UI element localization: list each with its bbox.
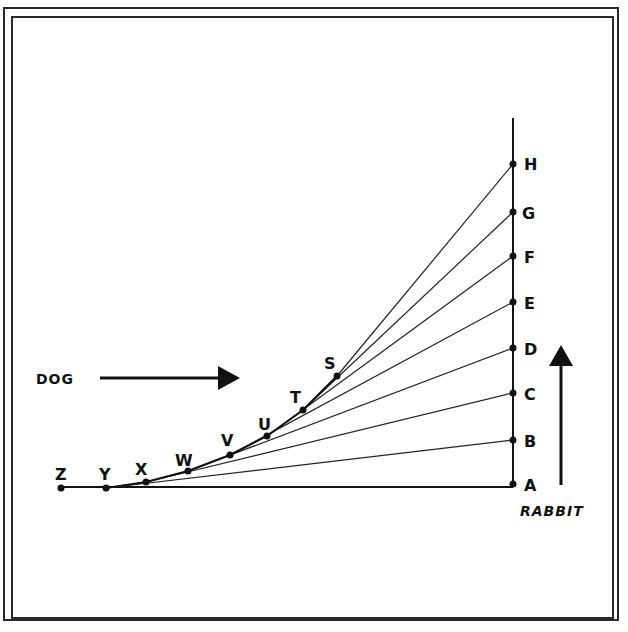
- sight-lines: [106, 164, 513, 488]
- sight-line-t-g: [303, 212, 513, 410]
- label-v: V: [221, 431, 234, 450]
- point-f: [510, 253, 517, 260]
- label-t: T: [290, 388, 301, 407]
- point-d: [510, 345, 517, 352]
- point-c: [510, 390, 517, 397]
- rabbit-point-labels: A B C D E F G H: [522, 155, 537, 495]
- label-g: G: [522, 204, 535, 223]
- rabbit-arrow-icon: [549, 345, 573, 485]
- label-f: F: [524, 248, 535, 267]
- label-z: Z: [55, 465, 67, 484]
- label-x: X: [135, 460, 148, 479]
- dog-arrow-icon: [100, 366, 240, 390]
- pursuit-diagram: A B C D E F G H Z Y X W V U T S DOG RABB…: [0, 0, 628, 632]
- sight-line-y-b: [106, 440, 513, 488]
- point-s: [334, 373, 341, 380]
- point-z: [58, 485, 65, 492]
- label-s: S: [324, 354, 336, 373]
- point-a: [510, 481, 517, 488]
- point-g: [510, 209, 517, 216]
- rabbit-label: RABBIT: [520, 503, 584, 519]
- point-t: [300, 407, 307, 414]
- point-v: [227, 452, 234, 459]
- label-u: U: [258, 415, 271, 434]
- label-w: W: [175, 451, 193, 470]
- label-a: A: [524, 476, 537, 495]
- point-b: [510, 437, 517, 444]
- label-b: B: [524, 432, 536, 451]
- point-e: [510, 299, 517, 306]
- label-h: H: [524, 155, 537, 174]
- dog-point-labels: Z Y X W V U T S: [55, 354, 336, 484]
- sight-line-s-h: [337, 164, 513, 376]
- label-c: C: [524, 385, 536, 404]
- label-e: E: [524, 294, 535, 313]
- sight-line-x-c: [146, 393, 513, 482]
- point-x: [143, 479, 150, 486]
- label-d: D: [524, 340, 537, 359]
- point-y: [103, 485, 110, 492]
- dog-label: DOG: [36, 371, 74, 387]
- point-h: [510, 161, 517, 168]
- label-y: Y: [98, 465, 111, 484]
